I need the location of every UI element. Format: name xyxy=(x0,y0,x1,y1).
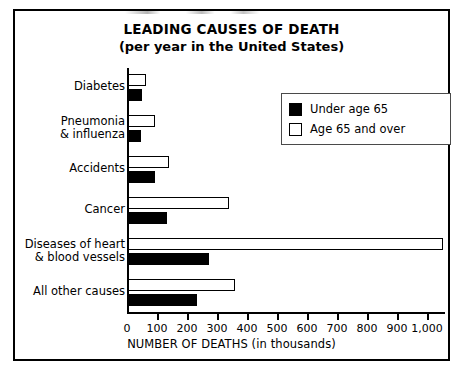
bar-over-65 xyxy=(128,115,155,127)
category-label-line: Accidents xyxy=(21,162,125,176)
category-label-line: Diabetes xyxy=(21,80,125,94)
x-axis-tick xyxy=(337,314,339,320)
chart-legend: Under age 65Age 65 and over xyxy=(281,93,451,145)
x-axis-tick-label: 400 xyxy=(237,322,258,335)
category-label-line: Pneumonia xyxy=(21,115,125,129)
category-axis-labels: DiabetesPneumonia& influenzaAccidentsCan… xyxy=(15,68,125,314)
chart-title: LEADING CAUSES OF DEATH xyxy=(15,21,448,38)
x-axis-tick-label: 300 xyxy=(207,322,228,335)
category-label: Pneumonia& influenza xyxy=(21,115,125,142)
category-label-line: All other causes xyxy=(21,285,125,299)
x-axis-tick-label: 700 xyxy=(327,322,348,335)
x-axis-tick xyxy=(427,314,429,320)
x-axis-tick-label: 1,000 xyxy=(411,322,443,335)
x-axis-tick xyxy=(217,314,219,320)
bar-group xyxy=(127,232,445,273)
bar-over-65 xyxy=(128,74,146,86)
category-label: Diseases of heart& blood vessels xyxy=(21,238,125,265)
category-label: Diabetes xyxy=(21,80,125,94)
legend-label: Under age 65 xyxy=(310,102,388,116)
x-axis-tick-label: 0 xyxy=(124,322,131,335)
x-axis-tick-label: 100 xyxy=(147,322,168,335)
category-label-line: Diseases of heart xyxy=(21,238,125,252)
bar-under-65 xyxy=(128,89,142,101)
title-block: LEADING CAUSES OF DEATH (per year in the… xyxy=(15,21,448,55)
category-label-line: Cancer xyxy=(21,203,125,217)
bar-group xyxy=(127,273,445,314)
bar-over-65 xyxy=(128,197,229,209)
legend-item: Under age 65 xyxy=(289,99,442,119)
x-axis-tick-label: 900 xyxy=(387,322,408,335)
scan-artifact xyxy=(125,11,285,14)
category-label: Accidents xyxy=(21,162,125,176)
bar-under-65 xyxy=(128,253,209,265)
bar-under-65 xyxy=(128,130,141,142)
legend-label: Age 65 and over xyxy=(310,122,405,136)
x-axis-tick-label: 500 xyxy=(267,322,288,335)
legend-item: Age 65 and over xyxy=(289,119,442,139)
bar-under-65 xyxy=(128,171,155,183)
x-axis-title: NUMBER OF DEATHS (in thousands) xyxy=(15,337,448,351)
bar-group xyxy=(127,191,445,232)
chart-figure: LEADING CAUSES OF DEATH (per year in the… xyxy=(13,9,450,361)
chart-subtitle: (per year in the United States) xyxy=(15,38,448,55)
x-axis-tick-label: 800 xyxy=(357,322,378,335)
x-axis-tick xyxy=(157,314,159,320)
x-axis-tick xyxy=(307,314,309,320)
bar-over-65 xyxy=(128,156,169,168)
category-label-line: & blood vessels xyxy=(21,251,125,265)
x-axis-tick xyxy=(397,314,399,320)
x-axis-tick xyxy=(247,314,249,320)
legend-swatch-icon xyxy=(289,103,302,116)
category-label: All other causes xyxy=(21,285,125,299)
bar-group xyxy=(127,150,445,191)
category-label: Cancer xyxy=(21,203,125,217)
x-axis-tick-label: 200 xyxy=(177,322,198,335)
x-axis-tick xyxy=(187,314,189,320)
x-axis-tick xyxy=(277,314,279,320)
bar-over-65 xyxy=(128,279,235,291)
bar-under-65 xyxy=(128,212,167,224)
x-axis-tick-label: 600 xyxy=(297,322,318,335)
bar-over-65 xyxy=(128,238,443,250)
legend-swatch-icon xyxy=(289,123,302,136)
category-label-line: & influenza xyxy=(21,128,125,142)
bar-under-65 xyxy=(128,294,197,306)
x-axis-tick xyxy=(367,314,369,320)
